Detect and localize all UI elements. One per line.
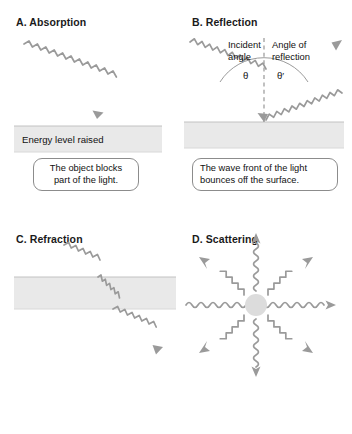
- scattering-caption-wrap: A small fraction of the incident light i…: [176, 217, 352, 434]
- panel-refraction: C. Refraction The light bends when it en…: [0, 217, 176, 434]
- caption-absorption: The object blocks part of the light.: [33, 158, 139, 191]
- panel-reflection: B. Reflection Incident an: [176, 0, 352, 217]
- refraction-caption-wrap: The light bends when it enters a substan…: [0, 217, 176, 434]
- light-interaction-figure: A. Absorption Energy level raised The ob…: [0, 0, 352, 434]
- panel-absorption: A. Absorption Energy level raised The ob…: [0, 0, 176, 217]
- reflection-caption-wrap: The wave front of the light bounces off …: [176, 0, 352, 217]
- caption-reflection: The wave front of the light bounces off …: [192, 158, 338, 191]
- panel-scattering: D. Scattering: [176, 217, 352, 434]
- absorption-caption-wrap: The object blocks part of the light.: [0, 0, 176, 217]
